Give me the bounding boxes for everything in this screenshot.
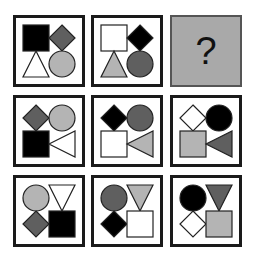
puzzle-grid: ? bbox=[13, 15, 245, 247]
diamond-icon bbox=[180, 105, 206, 131]
circle-icon bbox=[127, 51, 153, 77]
square-icon bbox=[101, 131, 127, 157]
diamond-icon bbox=[101, 105, 127, 131]
triangle-up-icon bbox=[101, 51, 127, 77]
shapes-icon bbox=[16, 98, 82, 164]
puzzle-cell-r3c2 bbox=[91, 175, 163, 247]
circle-icon bbox=[206, 105, 232, 131]
triangle-left-icon bbox=[49, 131, 75, 157]
diamond-icon bbox=[127, 25, 153, 51]
puzzle-cell-r2c3 bbox=[170, 95, 242, 167]
square-icon bbox=[23, 25, 49, 51]
shapes-icon bbox=[173, 178, 239, 244]
diamond-icon bbox=[180, 211, 206, 237]
puzzle-cell-r1c2 bbox=[91, 15, 163, 87]
shapes-icon bbox=[16, 18, 82, 84]
diamond-icon bbox=[23, 105, 49, 131]
circle-icon bbox=[127, 105, 153, 131]
shapes-icon bbox=[94, 18, 160, 84]
shapes-icon bbox=[94, 178, 160, 244]
puzzle-cell-r1c1 bbox=[13, 15, 85, 87]
circle-icon bbox=[23, 185, 49, 211]
triangle-down-icon bbox=[49, 185, 75, 211]
diamond-icon bbox=[101, 211, 127, 237]
missing-answer-cell[interactable]: ? bbox=[170, 15, 242, 87]
triangle-down-icon bbox=[127, 185, 153, 211]
circle-icon bbox=[101, 185, 127, 211]
triangle-left-icon bbox=[206, 131, 232, 157]
square-icon bbox=[23, 131, 49, 157]
square-icon bbox=[127, 211, 153, 237]
circle-icon bbox=[49, 105, 75, 131]
diamond-icon bbox=[49, 25, 75, 51]
question-mark: ? bbox=[172, 17, 240, 85]
shapes-icon bbox=[173, 98, 239, 164]
diamond-icon bbox=[23, 211, 49, 237]
square-icon bbox=[49, 211, 75, 237]
square-icon bbox=[101, 25, 127, 51]
puzzle-cell-r2c2 bbox=[91, 95, 163, 167]
circle-icon bbox=[180, 185, 206, 211]
triangle-up-icon bbox=[23, 51, 49, 77]
square-icon bbox=[180, 131, 206, 157]
triangle-left-icon bbox=[127, 131, 153, 157]
square-icon bbox=[206, 211, 232, 237]
puzzle-cell-r3c3 bbox=[170, 175, 242, 247]
circle-icon bbox=[49, 51, 75, 77]
shapes-icon bbox=[16, 178, 82, 244]
puzzle-cell-r3c1 bbox=[13, 175, 85, 247]
shapes-icon bbox=[94, 98, 160, 164]
triangle-down-icon bbox=[206, 185, 232, 211]
puzzle-cell-r2c1 bbox=[13, 95, 85, 167]
